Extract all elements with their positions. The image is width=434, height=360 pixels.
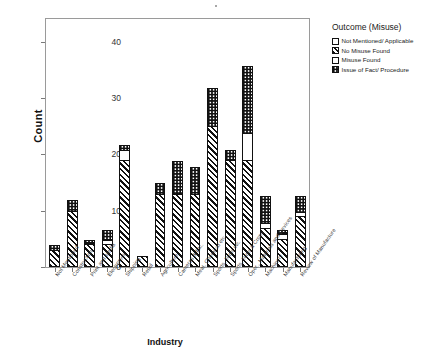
bar-segment (207, 88, 218, 127)
bar-segment (295, 196, 306, 213)
bar-column (119, 146, 130, 267)
legend-item-label: No Misuse Found (342, 47, 391, 55)
bar-segment (242, 133, 253, 161)
bar-series-layer (46, 19, 309, 267)
legend-item: Misuse Found (332, 56, 432, 64)
legend-swatch (332, 57, 339, 64)
legend-swatch (332, 47, 339, 54)
bar-segment (242, 66, 253, 134)
legend-item-list: Not Mentioned/ ApplicableNo Misuse Found… (332, 37, 432, 74)
bar-segment (260, 196, 271, 224)
bar-segment (172, 161, 183, 195)
bar-column (49, 246, 60, 267)
legend-title: Outcome (Misuse) (332, 22, 432, 32)
y-tick-mark (41, 267, 45, 268)
y-tick-mark (41, 211, 45, 212)
legend-item: Issue of Fact/ Procedure (332, 66, 432, 74)
y-tick-mark (41, 98, 45, 99)
legend-item-label: Issue of Fact/ Procedure (342, 66, 409, 74)
y-tick-mark (41, 154, 45, 155)
stray-speck (215, 5, 217, 7)
bar-segment (49, 250, 60, 267)
legend-item-label: Not Mentioned/ Applicable (342, 37, 414, 45)
plot-border-right (309, 19, 310, 267)
legend-item: Not Mentioned/ Applicable (332, 37, 432, 45)
bar-column (155, 184, 166, 267)
legend-swatch (332, 38, 339, 45)
bar-segment (155, 194, 166, 267)
y-tick-mark (41, 42, 45, 43)
legend: Outcome (Misuse) Not Mentioned/ Applicab… (332, 22, 432, 75)
bar-column (242, 67, 253, 267)
x-axis-title: Industry (0, 337, 330, 347)
chart-container: Count 010203040 Not MentionedConstructio… (0, 0, 434, 360)
bar-segment (190, 167, 201, 195)
legend-item-label: Misuse Found (342, 56, 381, 64)
legend-item: No Misuse Found (332, 47, 432, 55)
legend-swatch (332, 66, 339, 73)
